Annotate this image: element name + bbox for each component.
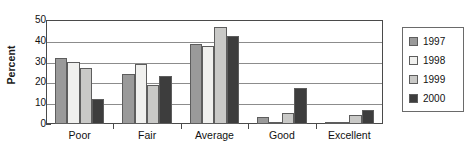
y-axis-tick-labels: 01020304050 [14, 20, 46, 124]
legend-item-2000[interactable]: 2000 [409, 89, 463, 108]
legend-swatch-icon-1999 [409, 75, 418, 84]
legend-label-1998: 1998 [423, 56, 445, 66]
legend-item-1997[interactable]: 1997 [409, 32, 463, 51]
y-tick-label: 30 [20, 57, 46, 67]
x-label-average: Average [195, 129, 234, 141]
legend-label-1997: 1997 [423, 37, 445, 47]
legend-swatch-icon-2000 [409, 94, 418, 103]
x-label-poor: Poor [69, 129, 91, 141]
legend-swatch-icon-1997 [409, 37, 418, 46]
legend-item-1999[interactable]: 1999 [409, 70, 463, 89]
gridline [47, 42, 382, 43]
x-label-good: Good [269, 129, 295, 141]
y-tick-label: 40 [20, 36, 46, 46]
plot-area [46, 20, 383, 124]
gridline [47, 83, 382, 84]
y-tick-label: 50 [20, 15, 46, 25]
legend-label-2000: 2000 [423, 94, 445, 104]
x-label-fair: Fair [138, 129, 156, 141]
bar-chart: Percent 01020304050 PoorFairAverageGoodE… [0, 0, 473, 167]
legend-swatch-icon-1998 [409, 56, 418, 65]
x-label-excellent: Excellent [328, 129, 371, 141]
gridline [47, 104, 382, 105]
gridline [47, 63, 382, 64]
legend-label-1999: 1999 [423, 75, 445, 85]
y-tick-label: 0 [20, 119, 46, 129]
x-axis-labels: PoorFairAverageGoodExcellent [46, 129, 383, 147]
y-tick-label: 20 [20, 77, 46, 87]
legend: 1997199819992000 [402, 27, 464, 112]
legend-item-1998[interactable]: 1998 [409, 51, 463, 70]
y-tick-label: 10 [20, 98, 46, 108]
